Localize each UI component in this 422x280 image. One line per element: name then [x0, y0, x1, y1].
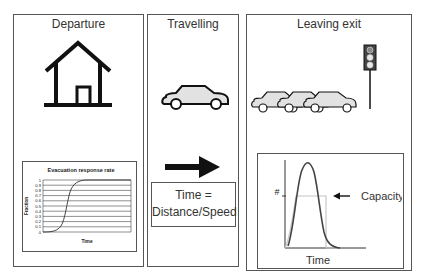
- panel-title-travelling: Travelling: [148, 17, 238, 31]
- capacity-label: Capacity: [361, 190, 402, 202]
- svg-text:0: 0: [39, 230, 42, 235]
- house-icon: [42, 39, 114, 111]
- car-queue-icon: [250, 88, 358, 116]
- car-icon: [160, 83, 230, 113]
- arrow-right-icon: [165, 156, 221, 178]
- evacuation-response-rate-chart: Evacuation response rate 1 0.9 0.8: [23, 162, 136, 251]
- panel-title-leaving-exit: Leaving exit: [247, 17, 411, 31]
- formula-box: Time = Distance/Speed: [151, 182, 236, 227]
- chart-title: Evacuation response rate: [48, 167, 115, 173]
- panel-travelling: Travelling Time = Distance/Speed: [147, 14, 239, 267]
- evacuation-chart: Evacuation response rate 1 0.9 0.8: [22, 161, 137, 252]
- capacity-flow-chart: # Capacity Time: [258, 154, 402, 267]
- y-axis-label: Fraction: [24, 197, 29, 215]
- formula-line-2: Distance/Speed: [152, 204, 235, 221]
- panel-title-departure: Departure: [14, 17, 143, 31]
- panel-departure: Departure Evacuation response rate: [13, 14, 144, 267]
- capacity-chart: # Capacity Time: [257, 153, 404, 269]
- y-axis-label: #: [274, 187, 279, 197]
- traffic-light-icon: [363, 44, 377, 110]
- formula-line-1: Time =: [152, 187, 235, 204]
- panel-leaving-exit: Leaving exit #: [246, 14, 412, 271]
- x-axis-label: Time: [306, 254, 330, 266]
- x-axis-label: Time: [81, 239, 92, 244]
